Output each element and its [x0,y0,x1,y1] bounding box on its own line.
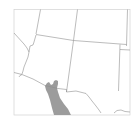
colorado-river-border [29,35,36,52]
map-canvas [0,0,136,121]
ca-nv-border [14,33,29,52]
az-ca-border [22,52,29,74]
co-east-border [127,10,128,47]
tx-coast-line [114,110,130,113]
range-map [0,0,136,121]
rio-grande [86,94,101,114]
baja-coast [19,75,22,78]
nm-tx-border [119,45,121,92]
four-corners-line [36,35,127,45]
nv-ut-border [36,10,41,35]
ut-co-border [74,10,78,41]
az-nm-border [67,41,74,93]
map-frame [14,10,130,116]
ok-panhandle-border [120,50,130,51]
shaded-range-area [45,80,71,115]
